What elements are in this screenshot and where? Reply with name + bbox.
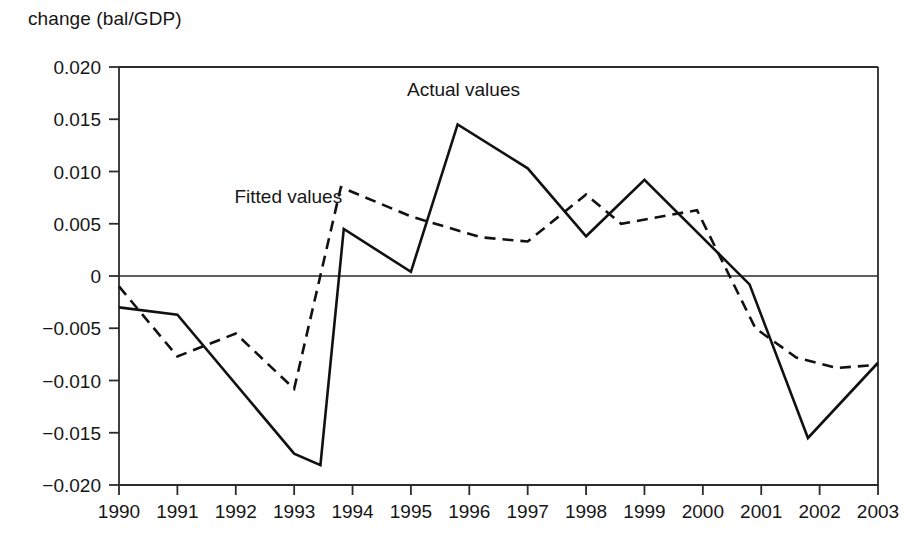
y-tick-label: 0.010 (53, 162, 101, 183)
y-tick-label: 0.015 (53, 109, 101, 130)
x-tick-label: 1997 (507, 501, 549, 522)
x-tick-label: 1992 (215, 501, 257, 522)
series-line-fitted-values (119, 187, 878, 389)
x-tick-label: 1993 (273, 501, 315, 522)
x-tick-label: 1990 (98, 501, 140, 522)
series-line-actual-values (119, 124, 878, 465)
x-tick-label: 1991 (156, 501, 198, 522)
y-tick-label: −0.005 (42, 318, 101, 339)
x-tick-label: 2001 (740, 501, 782, 522)
y-tick-label: 0.020 (53, 57, 101, 78)
x-tick-label: 1994 (331, 501, 374, 522)
x-tick-label: 1996 (448, 501, 490, 522)
x-axis-ticks: 1990199119921993199419951996199719981999… (98, 485, 899, 522)
series-annotation-label: Fitted values (234, 186, 342, 207)
x-tick-label: 2003 (857, 501, 899, 522)
x-tick-label: 1995 (390, 501, 432, 522)
chart-figure: change (bal/GDP) 0.0200.0150.0100.0050−0… (0, 0, 904, 546)
x-tick-label: 1999 (623, 501, 665, 522)
x-tick-label: 2000 (682, 501, 724, 522)
x-tick-label: 2002 (798, 501, 840, 522)
y-tick-label: −0.020 (42, 475, 101, 496)
chart-annotations: Actual valuesFitted values (234, 79, 520, 207)
y-tick-label: −0.010 (42, 371, 101, 392)
series-annotation-label: Actual values (407, 79, 520, 100)
y-tick-label: 0 (90, 266, 101, 287)
y-tick-label: −0.015 (42, 423, 101, 444)
y-axis-ticks: 0.0200.0150.0100.0050−0.005−0.010−0.015−… (42, 57, 119, 496)
x-tick-label: 1998 (565, 501, 607, 522)
y-tick-label: 0.005 (53, 214, 101, 235)
chart-canvas: 0.0200.0150.0100.0050−0.005−0.010−0.015−… (0, 0, 904, 546)
